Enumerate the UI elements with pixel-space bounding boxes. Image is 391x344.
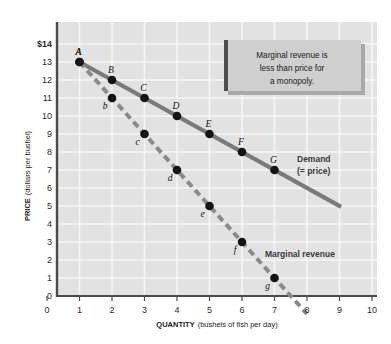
y-tick-label-11: 11 <box>43 93 52 103</box>
y-tick-label-1: 1 <box>47 273 52 283</box>
x-tick-label-2: 2 <box>109 305 114 315</box>
data-point-C <box>140 94 149 103</box>
x-tick-label-4: 4 <box>174 305 179 315</box>
point-label-A: A <box>75 47 82 57</box>
data-point-g <box>270 274 279 283</box>
callout-line-1: Marginal revenue is <box>256 51 327 60</box>
x-tick-label-9: 9 <box>337 305 342 315</box>
x-axis-title-bold: QUANTITY <box>156 320 194 329</box>
point-label-e: e <box>200 209 204 219</box>
data-point-D <box>173 112 182 121</box>
x-tick-label-0: 0 <box>44 305 49 315</box>
y-tick-label-14: $14 <box>37 39 52 49</box>
data-point-A <box>75 58 84 67</box>
point-label-E: E <box>205 119 212 129</box>
callout-annotation: Marginal revenue is less than price for … <box>224 40 365 95</box>
point-label-D: D <box>172 101 180 111</box>
chart-svg: ABCDEFGbcdefgA 012345678910111213$14 012… <box>0 0 391 344</box>
y-tick-label-9: 9 <box>47 129 52 139</box>
y-tick-label-5: 5 <box>47 201 52 211</box>
y-tick-label-7: 7 <box>47 165 52 175</box>
data-point-B <box>108 76 117 85</box>
y-axis-title: PRICE (dollars per bushel) <box>23 130 32 221</box>
x-tick-label-6: 6 <box>239 305 244 315</box>
y-tick-label-12: 12 <box>42 75 52 85</box>
y-tick-label-10: 10 <box>42 111 52 121</box>
data-point-f <box>238 238 247 247</box>
data-point-E <box>205 130 214 139</box>
data-point-b <box>108 94 117 103</box>
x-axis-title-sub: (bushels of fish per day) <box>198 320 279 329</box>
y-axis-title-sub: (dollars per bushel) <box>23 130 32 195</box>
y-tick-label-6: 6 <box>47 183 52 193</box>
demand-label-line1: Demand <box>297 154 331 164</box>
y-tick-label-4: 4 <box>47 219 52 229</box>
y-tick-label-0: 0 <box>47 291 52 301</box>
callout-line-3: a monopoly. <box>270 77 314 86</box>
point-label-B: B <box>108 65 114 75</box>
y-axis-title-bold: PRICE <box>23 198 32 221</box>
data-point-c <box>140 130 149 139</box>
x-tick-label-5: 5 <box>207 305 212 315</box>
marginal-revenue-label: Marginal revenue <box>265 249 335 259</box>
point-label-d: d <box>168 173 173 183</box>
callout-line-2: less than price for <box>260 64 325 73</box>
x-tick-label-1: 1 <box>77 305 82 315</box>
point-label-b: b <box>103 101 108 111</box>
x-tick-label-10: 10 <box>367 305 377 315</box>
point-label-G: G <box>270 155 277 165</box>
data-point-G <box>270 166 279 175</box>
y-tick-label-3: 3 <box>47 237 52 247</box>
y-tick-label-8: 8 <box>47 147 52 157</box>
x-axis-title: QUANTITY (bushels of fish per day) <box>156 320 278 329</box>
x-tick-label-3: 3 <box>142 305 147 315</box>
y-tick-label-2: 2 <box>47 255 52 265</box>
x-tick-label-8: 8 <box>304 305 309 315</box>
y-tick-label-13: 13 <box>42 57 52 67</box>
demand-label-line2: (= price) <box>297 166 330 176</box>
point-label-F: F <box>237 137 244 147</box>
economics-chart-figure: ABCDEFGbcdefgA 012345678910111213$14 012… <box>0 0 391 344</box>
data-point-d <box>173 166 182 175</box>
x-tick-label-7: 7 <box>272 305 277 315</box>
callout-left-bar <box>224 40 228 91</box>
point-label-g: g <box>265 281 270 291</box>
data-point-F <box>238 148 247 157</box>
point-label-C: C <box>140 83 147 93</box>
data-point-e <box>205 202 214 211</box>
